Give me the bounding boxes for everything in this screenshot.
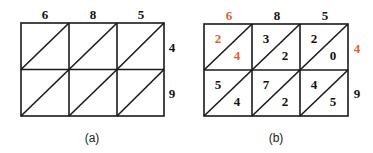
cell-tens: 2 xyxy=(215,32,222,45)
cell-ones: 2 xyxy=(282,95,289,108)
cell-ones: 0 xyxy=(330,49,337,62)
cell-tens: 3 xyxy=(263,32,270,45)
top-digit: 5 xyxy=(138,8,145,21)
right-digit: 9 xyxy=(354,87,361,100)
top-digit: 6 xyxy=(42,8,49,21)
cell-tens: 5 xyxy=(215,78,222,91)
cell-tens: 4 xyxy=(311,78,318,91)
cell-ones: 5 xyxy=(330,95,337,108)
right-digit-highlighted: 4 xyxy=(354,42,361,55)
top-digit: 8 xyxy=(90,8,97,21)
right-digit: 4 xyxy=(169,41,176,54)
cell-ones: 4 xyxy=(234,49,241,62)
caption-a: (a) xyxy=(85,131,100,145)
panel-b: 6 8 5 4 9 2 4 3 2 2 0 5 4 7 2 4 5 (b) xyxy=(186,0,373,153)
top-digit-highlighted: 6 xyxy=(226,9,233,22)
cell-ones: 2 xyxy=(282,49,289,62)
caption-b: (b) xyxy=(269,131,284,145)
top-digit: 8 xyxy=(274,9,281,22)
panel-a: 6 8 5 4 9 (a) xyxy=(0,0,186,153)
top-digit: 5 xyxy=(322,9,329,22)
right-digit: 9 xyxy=(169,87,176,100)
cell-tens: 2 xyxy=(311,32,318,45)
cell-ones: 4 xyxy=(234,95,241,108)
cell-tens: 7 xyxy=(263,78,270,91)
